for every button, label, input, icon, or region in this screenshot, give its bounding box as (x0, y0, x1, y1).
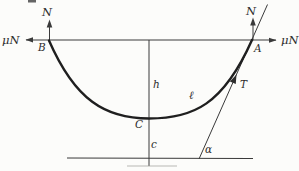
diagram-canvas: N μN B N μN A h C c ℓ T α (0, 0, 299, 171)
mechanics-diagram: N μN B N μN A h C c ℓ T α (0, 0, 299, 171)
clearance-label: c (151, 138, 157, 150)
friction-right-label: μN (281, 33, 299, 47)
cable-length-label: ℓ (189, 89, 194, 102)
print-smudge-artifact (127, 165, 177, 167)
scan-artifact (28, 0, 36, 3)
tension-label: T (240, 78, 248, 90)
friction-left-label: μN (2, 33, 20, 47)
point-a-label: A (253, 42, 262, 54)
point-c-label: C (135, 118, 143, 130)
point-b-label: B (37, 41, 46, 53)
angle-label: α (205, 143, 212, 155)
ground-line (67, 158, 253, 159)
normal-right-label: N (245, 4, 257, 18)
normal-left-label: N (41, 5, 53, 19)
sag-height-label: h (153, 78, 160, 90)
